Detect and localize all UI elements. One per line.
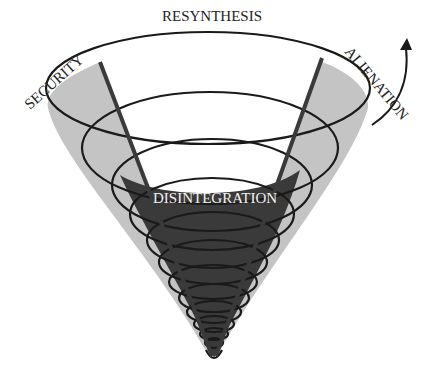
- label-resynthesis: RESYNTHESIS: [162, 8, 262, 24]
- arrow-head-icon: [400, 38, 412, 50]
- label-disintegration: DISINTEGRATION: [153, 190, 277, 206]
- spiral-cone-diagram: RESYNTHESIS SECURITY ALIENATION DISINTEG…: [0, 0, 428, 376]
